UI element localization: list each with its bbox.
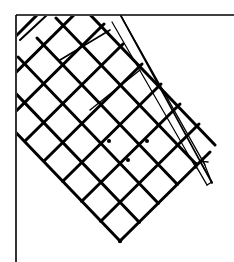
mesh-grid [0,0,215,241]
diagram-canvas [0,0,234,262]
mesh-panel-drawing [0,0,234,262]
